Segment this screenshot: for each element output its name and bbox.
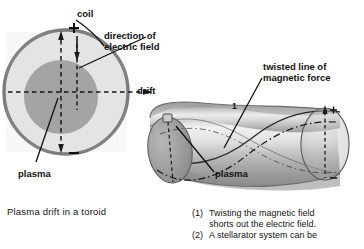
note-1-line-1: Twisting the magnetic field: [209, 208, 315, 219]
label-twisted-line-of-magnetic-force-line1: twisted line of: [263, 61, 326, 73]
label-direction-of-electric-field-line2: electric field: [104, 41, 159, 53]
coil-stub: [163, 114, 172, 122]
note-2-number: (2): [192, 230, 203, 241]
note-1-line-2: shorts out the electric field.: [209, 219, 316, 230]
label-coil: coil: [77, 8, 93, 20]
label-plasma-right: plasma: [215, 168, 248, 180]
label-twisted-line-of-magnetic-force-line2: magnetic force: [263, 72, 331, 84]
label-drift: drift: [137, 85, 155, 97]
note-1-number: (1): [192, 208, 203, 219]
label-marker-one: 1: [232, 101, 237, 111]
note-2-line-1: A stellarator system can be: [209, 230, 317, 241]
label-direction-of-electric-field-line1: direction of: [104, 30, 156, 42]
caption-plasma-drift-in-a-toroid: Plasma drift in a toroid: [7, 206, 106, 217]
label-plasma-left: plasma: [18, 168, 51, 180]
